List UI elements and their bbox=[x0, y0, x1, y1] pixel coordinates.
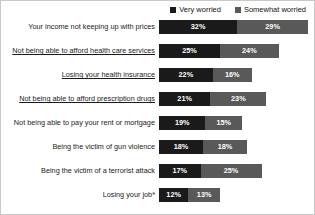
bar-segment-somewhat-worried: 16% bbox=[213, 68, 252, 82]
bar-value-somewhat-worried: 13% bbox=[197, 191, 212, 198]
stacked-bar: 32%29% bbox=[159, 20, 310, 34]
chart-row: Losing your job*12%13% bbox=[1, 188, 310, 202]
bar-value-somewhat-worried: 23% bbox=[231, 95, 246, 102]
row-label: Your income not keeping up with prices bbox=[1, 23, 159, 31]
stacked-bar: 22%16% bbox=[159, 68, 310, 82]
bar-segment-somewhat-worried: 15% bbox=[205, 116, 242, 130]
legend-item-very-worried: Very worried bbox=[170, 6, 221, 14]
bar-segment-somewhat-worried: 25% bbox=[201, 164, 262, 178]
bar-segment-somewhat-worried: 23% bbox=[210, 92, 266, 106]
bar-segment-very-worried: 21% bbox=[159, 92, 210, 106]
bar-value-somewhat-worried: 29% bbox=[265, 23, 280, 30]
stacked-bar: 12%13% bbox=[159, 188, 310, 202]
stacked-bar: 25%24% bbox=[159, 44, 310, 58]
stacked-bar: 19%15% bbox=[159, 116, 310, 130]
bar-value-very-worried: 12% bbox=[166, 191, 181, 198]
legend-swatch-somewhat-worried bbox=[235, 7, 241, 13]
stacked-bar: 21%23% bbox=[159, 92, 310, 106]
bar-value-very-worried: 19% bbox=[175, 119, 190, 126]
row-label: Not being able to afford prescription dr… bbox=[1, 95, 159, 103]
row-label: Not being able to afford health care ser… bbox=[1, 47, 159, 55]
bar-value-somewhat-worried: 16% bbox=[225, 71, 240, 78]
bar-segment-somewhat-worried: 24% bbox=[220, 44, 279, 58]
chart-row: Losing your health insurance22%16% bbox=[1, 68, 310, 82]
row-label: Being the victim of a terrorist attack bbox=[1, 167, 159, 175]
bar-value-very-worried: 32% bbox=[191, 23, 206, 30]
row-label: Losing your job* bbox=[1, 191, 159, 199]
bar-segment-somewhat-worried: 18% bbox=[203, 140, 247, 154]
bar-value-very-worried: 17% bbox=[172, 167, 187, 174]
row-label: Losing your health insurance bbox=[1, 71, 159, 79]
bar-segment-very-worried: 25% bbox=[159, 44, 220, 58]
bar-segment-somewhat-worried: 13% bbox=[188, 188, 220, 202]
chart-legend: Very worried Somewhat worried bbox=[1, 1, 314, 15]
chart-row: Not being able to afford health care ser… bbox=[1, 44, 310, 58]
legend-swatch-very-worried bbox=[170, 7, 176, 13]
bar-value-very-worried: 25% bbox=[182, 47, 197, 54]
bar-value-very-worried: 22% bbox=[179, 71, 194, 78]
bar-segment-very-worried: 19% bbox=[159, 116, 205, 130]
chart-row: Not being able to pay your rent or mortg… bbox=[1, 116, 310, 130]
bar-segment-very-worried: 17% bbox=[159, 164, 201, 178]
bar-segment-very-worried: 18% bbox=[159, 140, 203, 154]
stacked-bar: 17%25% bbox=[159, 164, 310, 178]
bar-value-very-worried: 18% bbox=[174, 143, 189, 150]
bar-value-somewhat-worried: 15% bbox=[216, 119, 231, 126]
bar-segment-very-worried: 12% bbox=[159, 188, 188, 202]
bar-value-somewhat-worried: 18% bbox=[218, 143, 233, 150]
chart-row: Your income not keeping up with prices32… bbox=[1, 20, 310, 34]
legend-label-very-worried: Very worried bbox=[179, 6, 221, 14]
bar-value-very-worried: 21% bbox=[177, 95, 192, 102]
legend-label-somewhat-worried: Somewhat worried bbox=[244, 6, 306, 14]
chart-plot-area: Your income not keeping up with prices32… bbox=[1, 15, 314, 214]
bar-segment-very-worried: 32% bbox=[159, 20, 237, 34]
chart-row: Not being able to afford prescription dr… bbox=[1, 92, 310, 106]
bar-value-somewhat-worried: 24% bbox=[242, 47, 257, 54]
stacked-bar-chart: Very worried Somewhat worried Your incom… bbox=[0, 0, 315, 215]
row-label: Being the victim of gun violence bbox=[1, 143, 159, 151]
row-label: Not being able to pay your rent or mortg… bbox=[1, 119, 159, 127]
bar-segment-somewhat-worried: 29% bbox=[237, 20, 308, 34]
bar-value-somewhat-worried: 25% bbox=[224, 167, 239, 174]
bar-segment-very-worried: 22% bbox=[159, 68, 213, 82]
chart-row: Being the victim of a terrorist attack17… bbox=[1, 164, 310, 178]
chart-row: Being the victim of gun violence18%18% bbox=[1, 140, 310, 154]
legend-item-somewhat-worried: Somewhat worried bbox=[235, 6, 306, 14]
stacked-bar: 18%18% bbox=[159, 140, 310, 154]
